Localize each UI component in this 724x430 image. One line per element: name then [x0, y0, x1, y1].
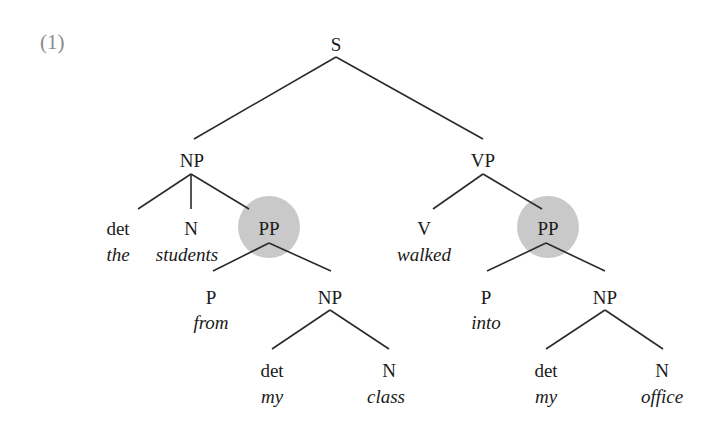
edge-s-vp [336, 57, 483, 139]
word-into: into [471, 313, 501, 332]
edge-np-det [138, 174, 191, 209]
word-the: the [106, 245, 129, 264]
edge-np2-n [330, 310, 389, 349]
node-n-office: N [655, 361, 669, 380]
word-walked: walked [397, 245, 451, 264]
node-det-my-2: det [534, 361, 557, 380]
node-det: det [106, 219, 129, 238]
edge-np-pp [191, 174, 249, 209]
node-vp: VP [471, 151, 495, 170]
syntax-tree-diagram: (1) S NP det the N students PP P from NP… [0, 0, 724, 430]
edge-s-np [194, 57, 336, 139]
edge-np2-det [272, 310, 330, 349]
word-office: office [641, 387, 683, 406]
node-det-my: det [260, 361, 283, 380]
node-np-my-office: NP [593, 288, 617, 307]
node-s: S [331, 35, 342, 54]
edge-vp-pp [483, 174, 542, 209]
node-vp-pp: PP [537, 219, 558, 238]
edge-vp-v [433, 174, 483, 209]
edge-pp-np [269, 243, 331, 271]
node-p-into: P [481, 288, 492, 307]
node-n: N [184, 219, 198, 238]
word-from: from [193, 313, 228, 332]
node-v: V [417, 219, 431, 238]
node-subject-np: NP [180, 151, 204, 170]
node-subject-pp: PP [258, 219, 279, 238]
edge-np3-n [605, 310, 663, 349]
word-class: class [367, 387, 405, 406]
word-my: my [261, 387, 283, 406]
node-p-from: P [206, 288, 217, 307]
example-number: (1) [40, 30, 65, 55]
tree-edges [0, 0, 724, 430]
edge-pp-p [213, 243, 269, 271]
edge-pp2-p [487, 243, 546, 271]
word-students: students [156, 245, 218, 264]
node-n-class: N [382, 361, 396, 380]
edge-np3-det [546, 310, 605, 349]
node-np-my-class: NP [318, 288, 342, 307]
word-my-2: my [535, 387, 557, 406]
